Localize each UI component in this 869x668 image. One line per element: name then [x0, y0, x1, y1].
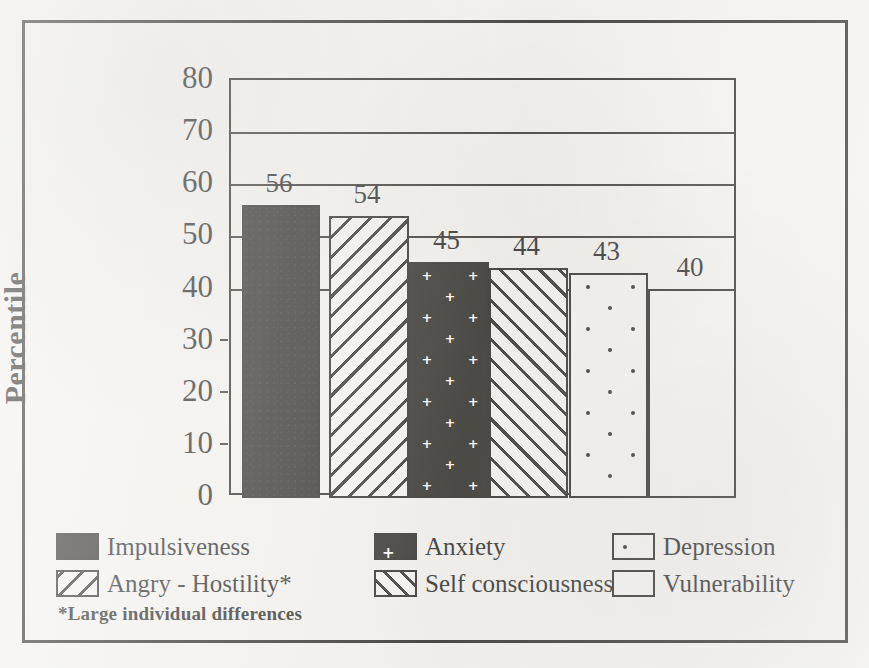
y-tick-mark-20	[220, 391, 228, 393]
plus-pattern-icon: +	[468, 397, 479, 407]
plus-pattern-icon: +	[421, 481, 432, 491]
y-tick-label-10: 10	[111, 427, 213, 458]
legend-label-vulnerability: Vulnerability	[663, 570, 795, 597]
dot-pattern-icon	[631, 453, 635, 457]
legend-swatch-backslash-hatch-icon	[56, 570, 99, 597]
dot-pattern-icon	[608, 390, 612, 394]
plus-pattern-icon: +	[421, 439, 432, 449]
y-tick-label-20: 20	[111, 375, 213, 406]
dot-pattern-icon	[586, 327, 590, 331]
legend-label-impulsiveness: Impulsiveness	[107, 533, 250, 560]
bar-vulnerability	[648, 289, 736, 499]
gridline-70	[231, 132, 734, 134]
legend-item-vulnerability[interactable]: Vulnerability	[612, 565, 795, 602]
y-tick-mark-30	[220, 339, 228, 341]
y-tick-label-80: 80	[111, 62, 213, 93]
plus-pattern-icon: +	[445, 460, 456, 470]
plot-area: +++++++++++++++++	[229, 78, 736, 495]
plus-pattern-icon: +	[445, 292, 456, 302]
dot-pattern-icon	[586, 369, 590, 373]
plus-pattern-icon: +	[468, 481, 479, 491]
dot-pattern-icon	[586, 411, 590, 415]
footnote: *Large individual differences	[58, 603, 302, 625]
y-tick-label-30: 30	[111, 323, 213, 354]
dot-pattern-icon	[586, 453, 590, 457]
y-axis-title: Percentile	[0, 208, 32, 468]
dot-pattern-icon	[608, 474, 612, 478]
plus-pattern-icon: +	[421, 397, 432, 407]
dot-pattern-icon	[608, 432, 612, 436]
legend-swatch-solid-black-icon	[56, 533, 99, 560]
dot-pattern-icon	[631, 285, 635, 289]
y-tick-mark-10	[220, 443, 228, 445]
legend-label-depression: Depression	[663, 533, 775, 560]
bar-value-label-4: 44	[487, 233, 566, 260]
bar-depression	[569, 273, 648, 498]
bar-angry-hostility	[329, 216, 409, 498]
legend-swatch-plus-pattern-icon	[374, 533, 417, 560]
y-tick-label-50: 50	[111, 218, 213, 249]
dot-pattern-icon	[608, 306, 612, 310]
y-tick-label-70: 70	[111, 114, 213, 145]
bar-anxiety: +++++++++++++++++	[408, 262, 489, 498]
bar-value-label-1: 56	[240, 170, 318, 197]
legend-item-depression[interactable]: Depression	[612, 528, 775, 565]
legend-swatch-plain-white-icon	[612, 570, 655, 597]
bar-impulsiveness	[242, 205, 320, 498]
legend-label-anxiety: Anxiety	[425, 533, 506, 560]
legend-swatch-forwardslash-hatch-icon	[374, 570, 417, 597]
plus-pattern-icon: +	[421, 313, 432, 323]
legend-item-impulsiveness[interactable]: Impulsiveness	[56, 528, 250, 565]
plus-pattern-icon: +	[468, 355, 479, 365]
y-tick-label-60: 60	[111, 166, 213, 197]
legend-item-self-consciousness[interactable]: Self consciousness	[374, 565, 613, 602]
dot-pattern-icon	[631, 369, 635, 373]
dot-pattern-icon	[586, 285, 590, 289]
y-tick-label-40: 40	[111, 271, 213, 302]
dot-pattern-icon	[608, 348, 612, 352]
plus-pattern-icon: +	[468, 439, 479, 449]
plus-pattern-icon: +	[468, 271, 479, 281]
bar-value-label-2: 54	[327, 181, 407, 208]
bar-value-label-5: 43	[567, 238, 646, 265]
legend-row-1: Impulsiveness Anxiety Depression	[56, 528, 836, 565]
plus-pattern-icon: +	[421, 271, 432, 281]
bar-value-label-3: 45	[406, 227, 487, 254]
legend-item-anxiety[interactable]: Anxiety	[374, 528, 506, 565]
plus-pattern-icon: +	[445, 334, 456, 344]
dot-pattern-icon	[631, 411, 635, 415]
plus-pattern-icon: +	[421, 355, 432, 365]
plus-pattern-icon: +	[445, 376, 456, 386]
bar-value-label-6: 40	[646, 254, 734, 281]
legend-swatch-dots-pattern-icon	[612, 533, 655, 560]
legend-label-angry-hostility: Angry - Hostility*	[107, 570, 292, 597]
legend: Impulsiveness Anxiety Depression Angry -…	[56, 528, 836, 602]
legend-label-self-consciousness: Self consciousness	[425, 570, 613, 597]
legend-row-2: Angry - Hostility* Self consciousness Vu…	[56, 565, 836, 602]
chart-page: Percentile 80706050403020100 +++++++++++…	[0, 0, 869, 668]
legend-item-angry-hostility[interactable]: Angry - Hostility*	[56, 565, 292, 602]
plus-pattern-icon: +	[468, 313, 479, 323]
y-tick-label-0: 0	[111, 479, 213, 510]
dot-pattern-icon	[631, 327, 635, 331]
bar-self-consciousness	[489, 268, 568, 498]
plus-pattern-icon: +	[445, 418, 456, 428]
